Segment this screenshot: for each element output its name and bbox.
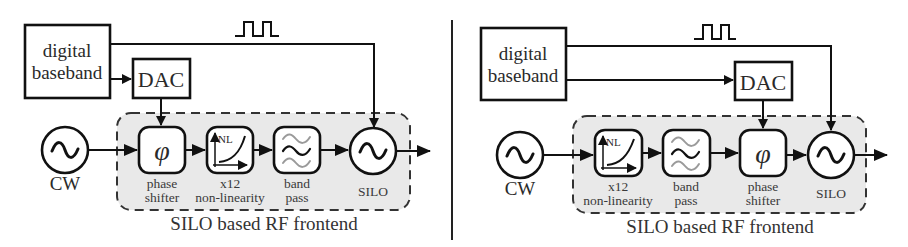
- bandpass-label-1: band: [673, 179, 699, 194]
- bandpass-block: [663, 130, 710, 176]
- nonlinearity-label-2: non-linearity: [195, 190, 265, 205]
- bandpass-label-2: pass: [285, 190, 308, 205]
- nonlinearity-label-1: x12: [220, 176, 240, 191]
- baseband-label-2: baseband: [32, 62, 103, 83]
- pulse-icon: [235, 22, 279, 36]
- pulse-icon: [694, 25, 736, 39]
- phase-shifter-label-2: shifter: [145, 190, 180, 205]
- silo-label: SILO: [816, 186, 846, 201]
- digital-baseband-block: [481, 28, 566, 100]
- dac-label: DAC: [138, 67, 184, 92]
- panel-right: SILO based RF frontend digital baseband …: [481, 25, 887, 237]
- frontend-caption: SILO based RF frontend: [626, 216, 814, 237]
- nl-text: NL: [218, 133, 233, 145]
- bandpass-label-2: pass: [674, 193, 697, 208]
- nonlinearity-label-1: x12: [608, 179, 628, 194]
- phase-shifter-label-1: phase: [748, 179, 779, 194]
- phase-shifter-label-1: phase: [147, 176, 178, 191]
- block-diagram: SILO based RF frontend digital baseband …: [0, 0, 908, 247]
- phi-icon: φ: [154, 135, 170, 166]
- frontend-caption: SILO based RF frontend: [170, 213, 358, 234]
- baseband-label-1: digital: [43, 40, 92, 61]
- dac-label: DAC: [740, 70, 786, 95]
- phi-icon: φ: [755, 138, 771, 169]
- baseband-label-1: digital: [499, 43, 548, 64]
- panel-left: SILO based RF frontend digital baseband …: [25, 22, 430, 234]
- silo-label: SILO: [358, 184, 388, 199]
- nl-text: NL: [606, 136, 621, 148]
- cw-label: CW: [505, 178, 536, 199]
- baseband-label-2: baseband: [488, 65, 559, 86]
- nonlinearity-label-2: non-linearity: [583, 193, 653, 208]
- bandpass-label-1: band: [284, 176, 310, 191]
- bandpass-block: [274, 127, 320, 173]
- cw-label: CW: [50, 173, 81, 194]
- phase-shifter-label-2: shifter: [746, 193, 781, 208]
